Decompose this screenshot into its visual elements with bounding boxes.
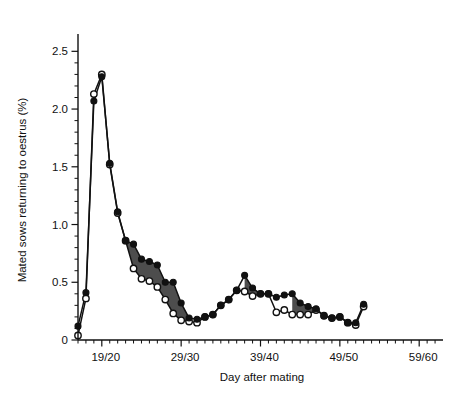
data-point-filled (202, 314, 208, 320)
data-point-filled (353, 320, 359, 326)
data-point-filled (297, 300, 303, 306)
data-point-filled (289, 291, 295, 297)
data-point-filled (210, 312, 216, 318)
data-point-filled (250, 285, 256, 291)
data-point-filled (154, 262, 160, 268)
data-point-filled (258, 291, 264, 297)
data-point-open (146, 278, 152, 284)
series-open-markers (75, 71, 367, 338)
data-point-filled (281, 292, 287, 298)
data-point-filled (178, 300, 184, 306)
data-point-filled (131, 241, 137, 247)
y-tick-label: 1.0 (52, 219, 68, 231)
data-point-filled (186, 315, 192, 321)
data-point-filled (345, 320, 351, 326)
data-point-open (241, 288, 247, 294)
data-point-open (170, 310, 176, 316)
data-point-open (297, 311, 303, 317)
data-point-filled (242, 272, 248, 278)
x-tick-label: 39/40 (250, 351, 279, 363)
x-axis: 19/2029/3039/4049/5059/60 (78, 340, 443, 363)
data-point-filled (107, 160, 113, 166)
data-point-filled (273, 294, 279, 300)
data-point-filled (99, 74, 105, 80)
data-point-filled (305, 304, 311, 310)
shaded-band-band-1 (126, 241, 189, 322)
data-point-filled (321, 313, 327, 319)
x-tick-label: 29/30 (171, 351, 200, 363)
data-point-filled (146, 258, 152, 264)
data-point-open (281, 307, 287, 313)
data-point-filled (234, 287, 240, 293)
y-axis: 00.51.01.52.02.5 (52, 34, 78, 346)
data-point-open (162, 296, 168, 302)
y-axis-title: Mated sows returning to oestrus (%) (16, 97, 28, 282)
y-tick-label: 0.5 (52, 276, 68, 288)
x-tick-label: 49/50 (329, 351, 358, 363)
data-point-filled (83, 290, 89, 296)
data-point-filled (91, 98, 97, 104)
data-point-filled (170, 279, 176, 285)
data-point-filled (115, 209, 121, 215)
y-tick-label: 2.0 (52, 103, 68, 115)
x-tick-label: 59/60 (409, 351, 438, 363)
series-filled-markers (75, 74, 367, 329)
oestrus-return-line-chart: 00.51.01.52.02.5 19/2029/3039/4049/5059/… (0, 0, 467, 401)
y-tick-label: 0 (62, 334, 68, 346)
data-point-filled (162, 279, 168, 285)
data-point-filled (138, 256, 144, 262)
data-point-filled (337, 314, 343, 320)
data-point-filled (329, 315, 335, 321)
data-point-open (91, 91, 97, 97)
x-axis-title: Day after mating (220, 371, 304, 383)
series-filled-line (78, 77, 364, 326)
data-point-open (178, 317, 184, 323)
data-point-open (154, 284, 160, 290)
data-point-open (138, 276, 144, 282)
data-point-filled (123, 238, 129, 244)
x-tick-label: 19/20 (91, 351, 120, 363)
series-open-line (78, 74, 364, 335)
data-point-open (273, 309, 279, 315)
data-point-filled (218, 302, 224, 308)
y-tick-label: 2.5 (52, 45, 68, 57)
data-point-open (130, 265, 136, 271)
y-tick-label: 1.5 (52, 161, 68, 173)
chart-container: 00.51.01.52.02.5 19/2029/3039/4049/5059/… (0, 0, 467, 401)
data-point-filled (361, 301, 367, 307)
data-point-filled (226, 297, 232, 303)
data-point-filled (313, 306, 319, 312)
data-point-filled (265, 291, 271, 297)
data-point-open (305, 311, 311, 317)
data-point-open (289, 311, 295, 317)
data-point-open (249, 293, 255, 299)
data-point-filled (194, 316, 200, 322)
